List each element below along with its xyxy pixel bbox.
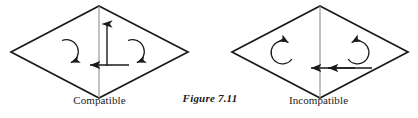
left-rotation-arrow-incompatible — [271, 41, 292, 64]
right-rotation-arrow-incompatible — [348, 41, 369, 64]
figure-container: Compatible Figure 7.11 Incompatible — [0, 0, 418, 118]
figure-diagram — [0, 0, 418, 118]
right-rotation-arrow-compatible — [128, 40, 144, 63]
panel-incompatible — [232, 6, 408, 98]
panel-compatible — [11, 6, 188, 98]
left-rotation-arrow-compatible — [62, 40, 78, 63]
